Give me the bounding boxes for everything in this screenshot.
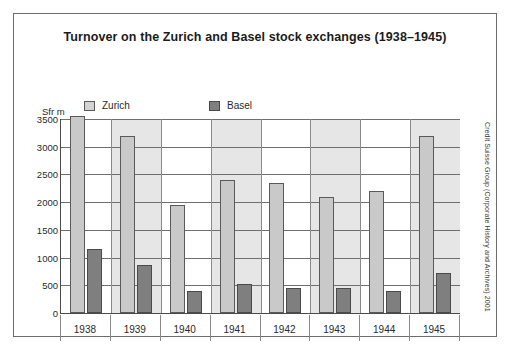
legend-label: Basel	[227, 100, 252, 111]
bar-basel-1943	[336, 288, 351, 313]
bar-zurich-1944	[369, 191, 384, 313]
x-axis-separator	[409, 315, 410, 341]
y-tick-label: 2000	[16, 197, 58, 208]
category-separator	[211, 119, 212, 313]
bar-zurich-1942	[269, 183, 284, 313]
page-title: Turnover on the Zurich and Basel stock e…	[14, 30, 496, 44]
bar-basel-1942	[286, 288, 301, 313]
x-tick-label-1940: 1940	[160, 324, 210, 335]
x-tick-label-1938: 1938	[60, 324, 110, 335]
category-separator	[310, 119, 311, 313]
category-separator	[410, 119, 411, 313]
y-tick-label: 3500	[16, 114, 58, 125]
credit-line: Credit Suisse Group (Corporate History a…	[484, 122, 491, 312]
y-tick-label: 1500	[16, 224, 58, 235]
legend-item-zurich: Zurich	[84, 100, 130, 111]
bar-zurich-1938	[70, 116, 85, 313]
category-band	[211, 119, 261, 313]
bar-basel-1938	[87, 249, 102, 313]
x-tick-label-1945: 1945	[409, 324, 459, 335]
bar-basel-1944	[386, 291, 401, 313]
legend-swatch-icon	[209, 101, 220, 111]
x-axis-separator	[260, 315, 261, 341]
legend-item-basel: Basel	[209, 100, 252, 111]
bar-zurich-1945	[419, 136, 434, 313]
bar-zurich-1939	[120, 136, 135, 313]
chart-figure: Turnover on the Zurich and Basel stock e…	[13, 13, 497, 337]
x-axis-separator	[459, 315, 460, 341]
category-band	[111, 119, 161, 313]
y-tick-label: 1000	[16, 252, 58, 263]
category-band	[410, 119, 460, 313]
bar-zurich-1941	[220, 180, 235, 313]
x-axis-separator	[160, 315, 161, 341]
bar-basel-1941	[237, 284, 252, 313]
x-tick-label-1939: 1939	[110, 324, 160, 335]
bar-zurich-1943	[319, 197, 334, 313]
x-tick-label-1944: 1944	[359, 324, 409, 335]
x-axis-separator	[60, 315, 61, 341]
category-separator	[161, 119, 162, 313]
category-separator	[360, 119, 361, 313]
bar-zurich-1940	[170, 205, 185, 313]
legend-swatch-icon	[84, 101, 95, 111]
y-tick-label: 0	[16, 308, 58, 319]
y-tick-label: 3000	[16, 141, 58, 152]
gridline	[61, 313, 460, 314]
bar-basel-1939	[137, 265, 152, 313]
x-axis-separator	[110, 315, 111, 341]
x-axis-separator	[359, 315, 360, 341]
x-axis-separator	[309, 315, 310, 341]
y-tick-label: 500	[16, 280, 58, 291]
category-separator	[111, 119, 112, 313]
x-tick-label-1942: 1942	[260, 324, 310, 335]
plot-area	[60, 119, 460, 314]
x-tick-label-1941: 1941	[210, 324, 260, 335]
x-tick-label-1943: 1943	[309, 324, 359, 335]
category-separator	[261, 119, 262, 313]
x-axis-tick-labels: 19381939194019411942194319441945	[60, 315, 460, 341]
category-band	[310, 119, 360, 313]
legend-label: Zurich	[102, 100, 130, 111]
y-axis-tick-labels: 3500300025002000150010005000	[14, 119, 58, 313]
y-tick-label: 2500	[16, 169, 58, 180]
x-axis-separator	[210, 315, 211, 341]
bar-basel-1945	[436, 273, 451, 313]
bar-basel-1940	[187, 291, 202, 313]
